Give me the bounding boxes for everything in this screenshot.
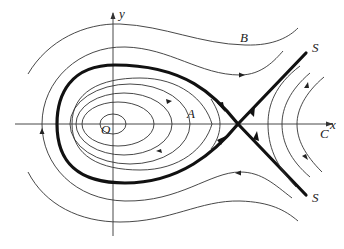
trajectory-C-1 <box>268 66 300 187</box>
y-axis-label: y <box>117 6 125 21</box>
orbit-arrow-icon <box>166 99 172 104</box>
trajectory-arrow-icon <box>239 73 245 78</box>
y-axis-arrow-icon <box>111 12 116 19</box>
trajectory-C-3 <box>297 77 324 172</box>
region-A-label: A <box>186 106 195 121</box>
separatrix-top <box>238 53 306 124</box>
trajectory-C-2 <box>282 73 310 177</box>
separatrix-bottom <box>238 124 306 195</box>
trajectory-arrow-icon <box>304 82 309 88</box>
orbit-arrow-icon <box>156 149 162 153</box>
separatrix-top-label: S <box>312 40 319 55</box>
origin-label: O <box>101 122 111 137</box>
trajectory-arrow-icon <box>235 171 241 176</box>
loop-arrow-icon <box>217 102 225 112</box>
axes <box>15 12 333 236</box>
trajectory-arrow-icon <box>302 154 308 160</box>
region-B-label: B <box>240 30 248 45</box>
outer-trajectories <box>28 24 298 222</box>
trajectory-arrow-icon <box>40 128 45 134</box>
region-C-label: C <box>320 126 329 141</box>
separatrix-bottom-label: S <box>312 190 319 205</box>
x-axis-label: x <box>329 117 336 132</box>
phase-portrait-diagram: y x O A B C S S <box>0 0 344 249</box>
